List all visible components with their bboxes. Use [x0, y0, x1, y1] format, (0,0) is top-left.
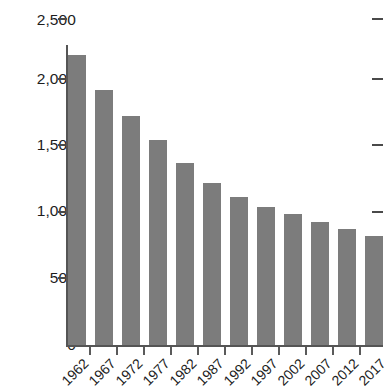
bar-2017	[365, 236, 383, 345]
x-axis-tick-1	[116, 347, 118, 355]
x-axis-tick-5	[224, 347, 226, 355]
x-axis-tick-3	[170, 347, 172, 355]
bar-1982	[176, 163, 194, 345]
bar-1962	[68, 55, 86, 345]
plot-area	[68, 12, 383, 345]
bar-1992	[230, 197, 248, 345]
bar-1987	[203, 183, 221, 345]
bar-1997	[257, 207, 275, 345]
x-axis-tick-2	[143, 347, 145, 355]
x-axis-tick-9	[332, 347, 334, 355]
x-axis-tick-7	[278, 347, 280, 355]
bar-2012	[338, 229, 356, 345]
bar-2007	[311, 222, 329, 345]
bar-1977	[149, 140, 167, 345]
x-axis-tick-10	[359, 347, 361, 355]
bar-2002	[284, 214, 302, 345]
bar-1972	[122, 116, 140, 345]
x-axis-tick-8	[305, 347, 307, 355]
x-axis-tick-4	[197, 347, 199, 355]
bar-1967	[95, 90, 113, 345]
bar-chart: 2,500 2,000 1,500 1,000 500 0	[0, 0, 389, 390]
x-axis-tick-0	[89, 347, 91, 355]
y-axis-tick-2500	[58, 18, 67, 20]
x-axis-tick-6	[251, 347, 253, 355]
